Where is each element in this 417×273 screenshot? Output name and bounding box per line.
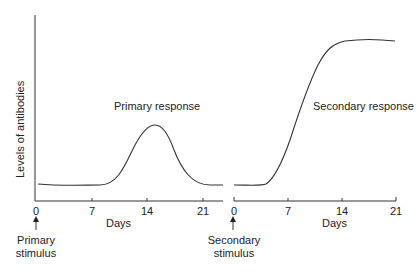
chart-canvas xyxy=(0,0,417,273)
tick-label-secondary-21: 21 xyxy=(390,205,402,217)
secondary-response-curve xyxy=(234,40,395,186)
primary-stimulus-line2: stimulus xyxy=(16,247,56,260)
y-axis-label: Levels of antibodies xyxy=(14,81,26,178)
primary-stimulus-label: Primary stimulus xyxy=(16,234,56,260)
tick-label-primary-14: 14 xyxy=(141,205,153,217)
tick-label-primary-0: 0 xyxy=(33,205,39,217)
primary-response-title: Primary response xyxy=(114,100,200,112)
tick-label-secondary-14: 14 xyxy=(336,205,348,217)
tick-label-primary-7: 7 xyxy=(89,205,95,217)
secondary-stimulus-line2: stimulus xyxy=(208,247,261,260)
secondary-response-title: Secondary response xyxy=(313,100,414,112)
x-axis-label-primary: Days xyxy=(106,217,131,229)
tick-label-secondary-0: 0 xyxy=(231,205,237,217)
tick-label-secondary-7: 7 xyxy=(285,205,291,217)
secondary-stimulus-label: Secondary stimulus xyxy=(208,234,261,260)
primary-stimulus-line1: Primary xyxy=(16,234,56,247)
secondary-stimulus-line1: Secondary xyxy=(208,234,261,247)
x-axis-label-secondary: Days xyxy=(322,217,347,229)
tick-label-primary-21: 21 xyxy=(197,205,209,217)
primary-response-curve xyxy=(38,125,223,185)
